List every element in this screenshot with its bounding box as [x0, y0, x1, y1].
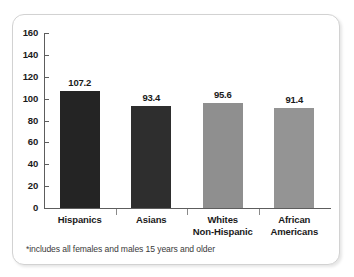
category-label-line: Americans: [270, 226, 318, 237]
bar: [203, 103, 243, 208]
y-axis-tick-label: 140: [12, 50, 38, 60]
category-label-line: Non-Hispanic: [193, 226, 253, 237]
y-axis-tick: [44, 186, 49, 187]
category-label-line: Asians: [136, 214, 167, 225]
x-axis-category-label: WhitesNon-Hispanic: [187, 214, 259, 237]
y-axis-tick-label: 80: [12, 116, 38, 126]
bar-value-label: 95.6: [198, 90, 248, 100]
y-axis-tick: [44, 208, 49, 209]
x-axis-category-label: Hispanics: [44, 214, 116, 226]
y-axis-tick: [44, 99, 49, 100]
y-axis-tick: [44, 164, 49, 165]
bar-value-label: 107.2: [55, 78, 105, 88]
bar-value-label: 93.4: [126, 93, 176, 103]
y-axis-tick-label: 40: [12, 159, 38, 169]
bar: [274, 108, 314, 208]
y-axis-tick: [44, 33, 49, 34]
y-axis-tick-label: 20: [12, 181, 38, 191]
y-axis-tick-label: 60: [12, 137, 38, 147]
y-axis-tick: [44, 142, 49, 143]
y-axis-tick-label: 100: [12, 94, 38, 104]
y-axis-tick: [44, 55, 49, 56]
y-axis-tick: [44, 77, 49, 78]
x-axis-category-label: AfricanAmericans: [258, 214, 330, 237]
chart-footnote: *includes all females and males 15 years…: [26, 244, 215, 254]
bar-value-label: 91.4: [269, 95, 319, 105]
bar: [60, 91, 100, 208]
y-axis-tick-label: 160: [12, 28, 38, 38]
category-label-line: Hispanics: [58, 214, 102, 225]
bar: [131, 106, 171, 208]
y-axis-tick: [44, 121, 49, 122]
chart-figure: 020406080100120140160 107.293.495.691.4 …: [0, 0, 354, 277]
category-label-line: African: [278, 214, 310, 225]
y-axis-tick-label: 120: [12, 72, 38, 82]
y-axis-tick-label: 0: [12, 203, 38, 213]
x-axis-category-label: Asians: [115, 214, 187, 226]
category-label-line: Whites: [207, 214, 238, 225]
